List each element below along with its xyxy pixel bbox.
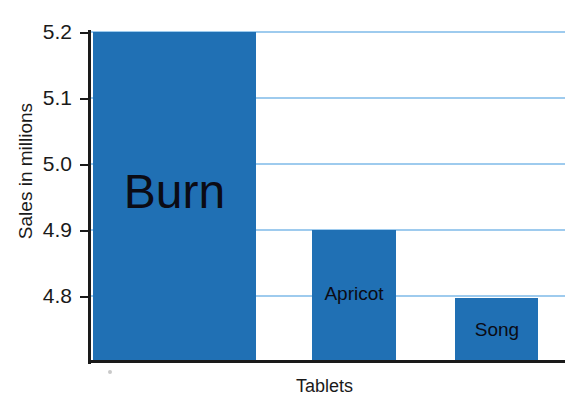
y-tick-mark-5.2	[80, 32, 90, 34]
y-tick-label-4.8: 4.8	[26, 285, 72, 306]
y-tick-mark-5.0	[80, 164, 90, 166]
bar-label-burn: Burn	[93, 168, 256, 216]
x-axis-title: Tablets	[0, 376, 577, 397]
y-tick-label-5.2: 5.2	[26, 21, 72, 42]
x-axis-minor-tick	[108, 370, 112, 374]
y-tick-mark-4.9	[80, 230, 90, 232]
bar-label-song: Song	[453, 320, 541, 339]
y-axis-title: Sales in millions	[15, 81, 37, 261]
bar-chart: Burn Apricot Song 5.2 5.1 5.0 4.9 4.8 Sa…	[0, 0, 577, 411]
y-axis-line	[88, 30, 91, 364]
y-tick-mark-5.1	[80, 98, 90, 100]
x-axis-title-text: Tablets	[296, 376, 353, 397]
bar-label-apricot: Apricot	[310, 284, 398, 303]
y-tick-mark-4.8	[80, 296, 90, 298]
x-axis-line	[88, 360, 565, 363]
